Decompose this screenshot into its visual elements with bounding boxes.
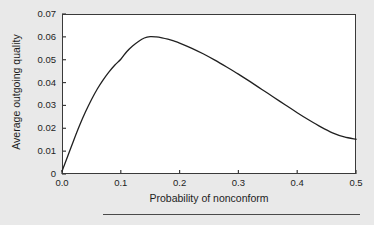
x-tick-label-2: 0.2 (160, 178, 200, 188)
x-tick-label-5: 0.5 (336, 178, 374, 188)
x-tick-label-3: 0.3 (218, 178, 258, 188)
plot-area (62, 14, 356, 174)
footer-rule (103, 214, 360, 215)
x-tick-label-0: 0.0 (42, 178, 82, 188)
x-tick-label-1: 0.1 (101, 178, 141, 188)
x-tick-label-4: 0.4 (277, 178, 317, 188)
y-axis-title: Average outgoing quality (10, 12, 22, 172)
x-axis-title: Probability of nonconform (62, 192, 356, 204)
chart-figure: 00.010.020.030.040.050.060.07 0.00.10.20… (0, 0, 374, 225)
